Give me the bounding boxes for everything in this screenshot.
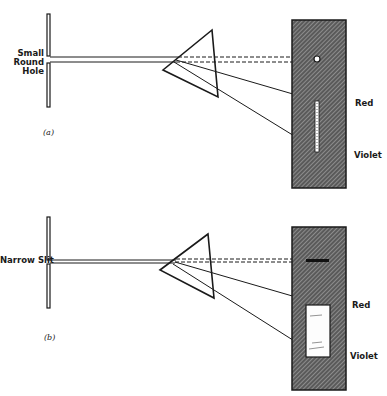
- prism-a: [163, 30, 218, 97]
- violet-label-a: Violet: [354, 151, 382, 160]
- red-label-b: Red: [352, 301, 370, 310]
- panel-label-b: (b): [44, 333, 55, 342]
- spectrum-line-a: [315, 101, 319, 152]
- prism-diagram: [0, 0, 387, 396]
- prism-b: [160, 234, 214, 298]
- aperture-label-a-line3: Hole: [6, 67, 44, 76]
- barrier-lower-b: [47, 264, 50, 308]
- violet-label-b: Violet: [350, 352, 378, 361]
- barrier-lower-a: [47, 63, 50, 107]
- barrier-upper-b: [47, 217, 50, 260]
- aperture-label-b: Narrow Slit: [0, 256, 54, 265]
- aperture-label-a: Small Round Hole: [6, 49, 44, 76]
- hole-image-a: [314, 56, 320, 62]
- barrier-upper-a: [47, 14, 50, 56]
- red-label-a: Red: [355, 99, 373, 108]
- panel-label-a: (a): [43, 128, 54, 137]
- panel-b: [47, 217, 346, 390]
- slit-image-b: [306, 259, 329, 262]
- panel-a: [47, 14, 346, 188]
